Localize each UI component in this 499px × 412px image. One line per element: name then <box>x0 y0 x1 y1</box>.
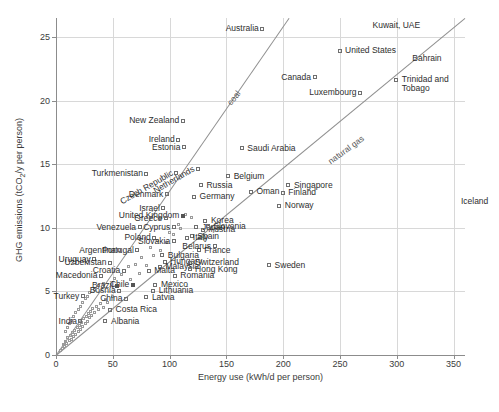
trendline-label-natural-gas: natural gas <box>326 133 366 166</box>
y-axis-tick-label: 15 <box>40 159 50 169</box>
y-axis-line <box>56 18 57 355</box>
data-point-label: Latvia <box>152 293 175 302</box>
scatter-chart: 0501001502002503003500510152025coalnatur… <box>0 0 499 412</box>
data-point-label: Kuwait, UAE <box>373 21 421 30</box>
data-point-label: Finland <box>288 188 316 197</box>
x-axis-tick-label: 350 <box>446 359 461 369</box>
data-point-label: Venezuela <box>96 223 136 232</box>
data-point-label: Belgium <box>234 172 265 181</box>
data-point-marker <box>108 308 112 312</box>
data-point-marker <box>99 274 103 278</box>
data-point-marker <box>394 78 398 82</box>
data-point <box>97 308 100 311</box>
x-axis-tick-label: 50 <box>108 359 118 369</box>
gridline-horizontal <box>56 164 465 165</box>
data-point-marker <box>226 174 230 178</box>
data-point <box>159 249 162 252</box>
data-point-marker <box>277 204 281 208</box>
data-point <box>129 278 132 281</box>
data-point-marker <box>81 294 85 298</box>
data-point-marker <box>144 172 148 176</box>
x-axis-tick-label: 100 <box>162 359 177 369</box>
data-point <box>63 345 66 348</box>
data-point-marker <box>164 216 168 220</box>
data-point-label: India <box>59 317 77 326</box>
data-point <box>95 305 98 308</box>
data-point-label: Cyprus <box>143 223 170 232</box>
data-point-marker <box>196 167 200 171</box>
data-point-label: Turkmenistan <box>92 169 143 178</box>
data-point-marker <box>173 274 177 278</box>
x-axis-tick-label: 0 <box>53 359 58 369</box>
data-point-marker <box>192 195 196 199</box>
data-point-marker <box>124 297 128 301</box>
data-point-label: United States <box>345 46 396 55</box>
y-axis-title: GHG emissions (tCO2/y per person) <box>14 118 26 262</box>
data-point <box>190 216 193 219</box>
data-point-marker <box>147 269 151 273</box>
data-point-label: Costa Rica <box>116 305 158 314</box>
data-point <box>93 311 96 314</box>
y-axis-tick-label: 20 <box>40 96 50 106</box>
data-point-label: Bahrain <box>412 54 441 63</box>
data-point-label: Saudi Arabia <box>247 144 295 153</box>
data-point <box>86 295 89 298</box>
data-point-label: Slovakia <box>138 237 170 246</box>
data-point <box>64 330 67 333</box>
data-point <box>149 246 152 249</box>
data-point-marker <box>131 283 135 287</box>
data-point-marker <box>78 319 82 323</box>
data-point-marker <box>194 225 198 229</box>
x-axis-line <box>56 355 465 356</box>
data-point <box>140 256 143 259</box>
plot-area: 0501001502002503003500510152025coalnatur… <box>56 18 465 355</box>
data-point <box>102 306 105 309</box>
data-point-label: Albania <box>111 317 139 326</box>
data-point <box>172 233 175 236</box>
x-axis-title: Energy use (kWh/d per person) <box>56 372 465 382</box>
data-point-label: Norway <box>285 201 314 210</box>
data-point-marker <box>181 214 185 218</box>
data-point-marker <box>267 263 271 267</box>
data-point-label: Denmark <box>129 190 163 199</box>
data-point <box>81 301 84 304</box>
gridline-horizontal <box>56 37 465 38</box>
data-point <box>79 305 82 308</box>
data-point-marker <box>153 283 157 287</box>
data-point-label: Russia <box>206 181 232 190</box>
data-point-marker <box>122 269 126 273</box>
data-point-marker <box>117 248 121 252</box>
data-point <box>177 223 180 226</box>
data-point-marker <box>103 319 107 323</box>
data-point-marker <box>160 253 164 257</box>
data-point-marker <box>172 239 176 243</box>
data-point-marker <box>313 75 317 79</box>
x-axis-tick-label: 200 <box>276 359 291 369</box>
gridline-horizontal <box>56 101 465 102</box>
data-point-label: Australia <box>226 24 259 33</box>
data-point-label: China <box>100 294 122 303</box>
data-point-label: Macedonia <box>56 271 98 280</box>
y-axis-tick-label: 10 <box>40 223 50 233</box>
data-point-label: Oman <box>256 187 279 196</box>
gridline-vertical <box>454 18 455 355</box>
data-point-label: Trinidad andTobago <box>402 75 449 93</box>
data-point-marker <box>358 91 362 95</box>
data-point-label: Iceland <box>461 197 488 206</box>
y-axis-tick-label: 0 <box>45 350 50 360</box>
data-point <box>179 227 182 230</box>
data-point-marker <box>138 225 142 229</box>
gridline-vertical <box>113 18 114 355</box>
data-point <box>134 263 137 266</box>
data-point-label: Canada <box>281 73 311 82</box>
data-point-marker <box>240 146 244 150</box>
gridline-vertical <box>283 18 284 355</box>
data-point <box>66 326 69 329</box>
data-point <box>138 272 141 275</box>
data-point-marker <box>260 27 264 31</box>
data-point <box>145 264 148 267</box>
data-point-label: Sweden <box>275 261 306 270</box>
data-point <box>86 320 89 323</box>
gridline-vertical <box>340 18 341 355</box>
data-point-marker <box>249 190 253 194</box>
